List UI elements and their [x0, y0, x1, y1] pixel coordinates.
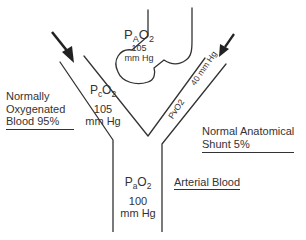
alveolar-po2-label: PAO2 105 mm Hg — [120, 28, 158, 63]
arterial-blood-label: Arterial Blood — [174, 176, 240, 189]
alveolar-po2-unit: mm Hg — [120, 54, 158, 63]
arterial-po2-unit: mm Hg — [112, 207, 164, 220]
left-arrow-icon — [52, 32, 74, 63]
arterial-po2-label: PaO2 100 mm Hg — [112, 176, 164, 220]
right-arrow-icon — [219, 34, 234, 57]
capillary-po2-label: PcO2 105 mm Hg — [78, 84, 128, 128]
capillary-po2-value: 105 — [78, 103, 128, 116]
capillary-po2-unit: mm Hg — [78, 115, 128, 128]
anatomical-shunt-label: Normal Anatomical Shunt 5% — [202, 125, 302, 153]
normally-oxygenated-label: Normally Oxygenated Blood 95% — [6, 90, 76, 130]
arterial-po2-value: 100 — [112, 195, 164, 208]
